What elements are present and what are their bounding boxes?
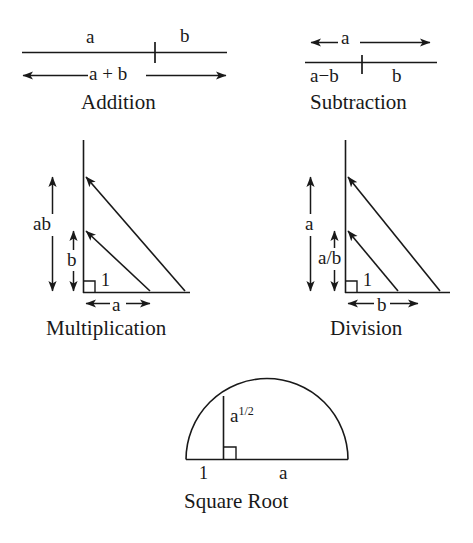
division-label-a: a: [305, 214, 313, 233]
subtraction-label-right: b: [392, 66, 402, 85]
figure-line-art: [0, 0, 473, 543]
addition-label-a: a: [86, 27, 94, 46]
division-caption: Division: [330, 318, 402, 339]
square-root-caption: Square Root: [184, 491, 288, 512]
figure-sheet: a b a + b Addition a a−b b Subtraction a…: [0, 0, 473, 543]
addition-caption: Addition: [81, 92, 156, 113]
addition-label-b: b: [180, 26, 190, 45]
division-label-base: b: [377, 295, 387, 314]
square-root-label-base-left: 1: [199, 464, 208, 482]
multiplication-caption: Multiplication: [46, 318, 166, 339]
division-diagram: [303, 140, 450, 313]
square-root-label-base-right: a: [279, 463, 287, 482]
division-outer-hypotenuse: [348, 177, 440, 291]
multiplication-label-b: b: [67, 250, 77, 269]
multiplication-label-unit: 1: [101, 271, 110, 289]
square-root-right-angle-mark: [224, 447, 236, 459]
square-root-altitude-exponent: 1/2: [238, 404, 253, 418]
division-label-ab: a/b: [318, 248, 341, 267]
subtraction-caption: Subtraction: [310, 92, 407, 113]
division-inner-hypotenuse: [348, 231, 398, 291]
addition-label-total: a + b: [89, 64, 127, 83]
multiplication-label-base: a: [112, 295, 120, 314]
subtraction-label-left: a−b: [310, 66, 339, 85]
square-root-semicircle: [186, 379, 348, 460]
multiplication-diagram: [44, 140, 190, 313]
division-label-unit: 1: [363, 271, 372, 289]
division-right-angle-mark: [346, 281, 357, 292]
multiplication-label-ab: ab: [33, 214, 51, 233]
square-root-label-altitude: a1/2: [230, 405, 254, 425]
subtraction-label-total: a: [341, 28, 349, 47]
square-root-diagram: [186, 379, 348, 460]
multiplication-right-angle-mark: [84, 281, 95, 292]
